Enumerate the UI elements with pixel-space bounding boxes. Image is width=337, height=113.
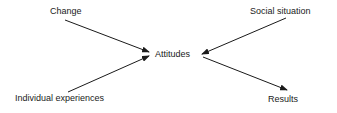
arrow-individual-to-attitudes	[68, 56, 149, 92]
attitudes-diagram: Change Social situation Attitudes Indivi…	[0, 0, 337, 113]
node-social-situation: Social situation	[250, 6, 311, 17]
node-attitudes: Attitudes	[155, 49, 190, 60]
node-individual-experiences: Individual experiences	[15, 93, 104, 104]
arrow-change-to-attitudes	[65, 20, 149, 52]
arrow-social-to-attitudes	[202, 18, 286, 54]
node-results: Results	[268, 94, 298, 105]
node-change: Change	[50, 6, 82, 17]
arrow-attitudes-to-results	[203, 57, 287, 90]
